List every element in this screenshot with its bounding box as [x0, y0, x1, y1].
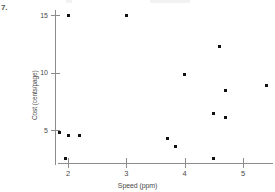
- y-tick-label-15: 15: [28, 12, 48, 19]
- data-point: [78, 134, 81, 137]
- data-point: [218, 45, 221, 48]
- x-tick-label-5: 5: [233, 170, 253, 178]
- data-point: [64, 157, 67, 160]
- scatter-plot-figure: 7. 51015 2345 Cost (cents/page) Speed (p…: [0, 0, 275, 192]
- y-tick-10: [51, 73, 60, 74]
- x-tick-label-4: 4: [175, 170, 195, 178]
- data-point: [224, 116, 227, 119]
- x-axis-line: [58, 163, 273, 164]
- data-point: [224, 89, 227, 92]
- x-tick-label-2: 2: [58, 170, 78, 178]
- data-point: [67, 134, 70, 137]
- data-point: [125, 14, 128, 17]
- x-tick-label-3: 3: [116, 170, 136, 178]
- data-point: [212, 112, 215, 115]
- y-axis-line: [55, 10, 56, 165]
- data-point: [183, 73, 186, 76]
- y-axis-title: Cost (cents/page): [31, 70, 38, 120]
- x-tick-3: [126, 158, 127, 168]
- data-point: [174, 145, 177, 148]
- data-point: [166, 137, 169, 140]
- y-tick-15: [51, 15, 60, 16]
- x-tick-5: [243, 158, 244, 168]
- x-tick-4: [185, 158, 186, 168]
- y-tick-label-5: 5: [28, 127, 48, 134]
- x-tick-2: [68, 158, 69, 168]
- data-point: [67, 14, 70, 17]
- data-point: [212, 157, 215, 160]
- x-axis-title: Speed (ppm): [0, 182, 275, 189]
- plot-area: 51015 2345 Cost (cents/page) Speed (ppm): [0, 0, 275, 192]
- data-point: [265, 84, 268, 87]
- data-point: [58, 131, 61, 134]
